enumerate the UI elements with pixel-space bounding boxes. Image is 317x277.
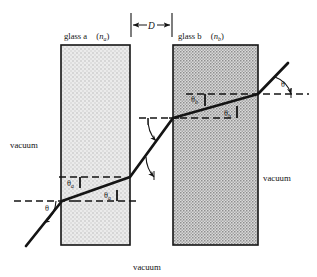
arc-gap-lower <box>146 157 154 177</box>
theta-exit-label: θ <box>281 80 285 89</box>
glass-b-paren-close: ) <box>221 31 224 41</box>
glass-a-label: glass a (na) <box>64 31 109 42</box>
glass-slab-b <box>173 45 258 245</box>
theta-incident-label: θ <box>45 204 49 213</box>
arc-gap-upper <box>148 118 156 141</box>
vacuum-label-left: vacuum <box>10 140 38 150</box>
refraction-diagram: glass a (na) glass b (nb) D θ <box>0 0 317 277</box>
glass-a-body <box>61 45 130 245</box>
glass-a-paren-close: ) <box>106 31 109 41</box>
glass-b-name: glass b <box>178 31 202 41</box>
svg-text:glass a (na): glass a (na) <box>64 31 109 42</box>
glass-b-body <box>173 45 258 245</box>
diagram-canvas: glass a (na) glass b (nb) D θ <box>0 0 317 277</box>
gap-dimension: D <box>131 13 172 37</box>
vacuum-label-right: vacuum <box>263 173 291 183</box>
glass-b-label: glass b (nb) <box>178 31 224 42</box>
svg-text:glass b (nb): glass b (nb) <box>178 31 224 42</box>
vacuum-label-bottom: vacuum <box>133 262 161 272</box>
reference-lines-group <box>14 94 309 201</box>
dimension-label: D <box>147 21 155 31</box>
glass-a-name: glass a <box>64 31 87 41</box>
angle-arc-exit: θ <box>275 77 291 98</box>
glass-slab-a <box>61 45 130 245</box>
